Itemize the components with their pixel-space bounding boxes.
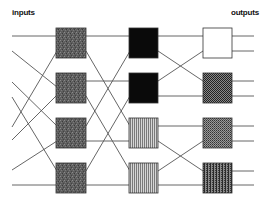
input-wire-7 <box>12 141 57 170</box>
stage2-stage3-wires <box>158 36 203 185</box>
switch-box-s1-r3 <box>56 118 86 148</box>
switch-box-s3-r4 <box>203 163 232 193</box>
switch-box-s1-r4 <box>56 163 86 193</box>
input-wire-2 <box>12 51 57 87</box>
switch-box-s3-r2 <box>203 73 232 103</box>
stage-2 <box>129 28 158 193</box>
switch-box-s2-r1 <box>129 28 158 58</box>
switch-box-s1-r1 <box>56 28 86 58</box>
switch-box-s3-r1 <box>203 28 232 58</box>
stage-1 <box>56 28 86 193</box>
network-diagram <box>0 0 270 199</box>
output-wires <box>232 36 254 185</box>
switch-box-s1-r2 <box>56 73 86 103</box>
switch-box-s2-r4 <box>129 163 158 193</box>
input-wires <box>12 36 57 185</box>
stage1-stage2-wires <box>86 36 130 185</box>
stage-3 <box>203 28 232 193</box>
switch-box-s2-r3 <box>129 118 158 148</box>
input-wire-4 <box>12 97 57 171</box>
switch-box-s2-r2 <box>129 73 158 103</box>
switch-box-s3-r3 <box>203 118 232 148</box>
